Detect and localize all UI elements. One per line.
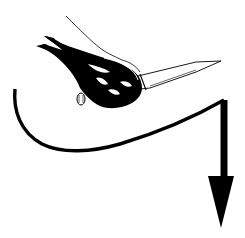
- knife-icon: [138, 61, 221, 90]
- path-arrow-icon: [15, 89, 234, 228]
- hand-icon: [36, 16, 142, 108]
- pictogram-svg: [0, 0, 245, 238]
- pictogram-canvas: [0, 0, 245, 238]
